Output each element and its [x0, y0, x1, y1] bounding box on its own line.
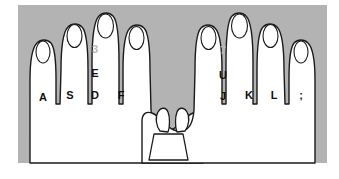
left-middle-reach-number-label: 3	[92, 43, 98, 55]
right-index-key-label: J	[220, 90, 226, 102]
right-index-reach-number-label: 7	[220, 44, 226, 56]
left-index-key-label: F	[118, 89, 125, 101]
right-ring-nail	[263, 25, 278, 48]
right-middle-nail	[232, 14, 248, 38]
left-ring-key-label: S	[66, 89, 73, 101]
diagram-canvas: 3 E A S D F 7 U J K L ;	[0, 0, 339, 179]
hand-position-diagram: 3 E A S D F 7 U J K L ;	[0, 0, 339, 179]
left-pinky-nail	[36, 41, 50, 63]
right-ring-key-label: L	[271, 89, 278, 101]
right-index-nail	[201, 27, 216, 50]
left-middle-key-label: D	[91, 89, 99, 101]
right-pinky-key-label: ;	[299, 89, 303, 101]
left-middle-nail	[98, 14, 114, 38]
right-middle-key-label: K	[245, 89, 253, 101]
right-index-reach-letter-label: U	[219, 69, 227, 81]
right-thumb	[176, 108, 189, 132]
left-thumb	[156, 108, 169, 132]
left-middle-reach-letter-label: E	[91, 67, 98, 79]
left-index-nail	[129, 27, 144, 50]
space-bar	[149, 134, 188, 160]
right-pinky-nail	[294, 41, 308, 63]
left-ring-nail	[67, 25, 82, 48]
left-pinky-key-label: A	[39, 91, 47, 103]
